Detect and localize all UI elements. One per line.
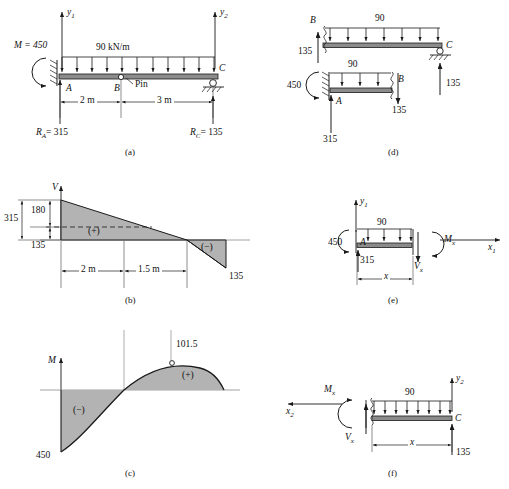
panel-f-axis-x2-label: x2	[286, 407, 294, 419]
panel-f-axis-y2-label: y2	[456, 374, 464, 386]
panel-d-bc-node-c-label: C	[446, 41, 452, 51]
panel-d-bc-shear-label: 135	[298, 47, 312, 57]
panel-e-dimension-label: x	[382, 272, 390, 282]
panel-b-axis-label: V	[52, 183, 58, 193]
panel-f-reaction-label: 135	[456, 448, 470, 458]
panel-d-bc-load-label: 90	[375, 14, 385, 24]
panel-d-ab-reaction-label: 315	[323, 135, 337, 145]
panel-c-peak-value-label: 101.5	[176, 340, 197, 350]
panel-a-applied-moment-label: M = 450	[14, 41, 47, 51]
panel-b-caption: (b)	[125, 296, 136, 305]
panel-c-sign-positive-label: (+)	[182, 371, 194, 381]
panel-a-dim-right-label: 3 m	[155, 96, 174, 106]
panel-b-value-upper-label: 180	[31, 206, 45, 216]
panel-e-load-label: 90	[377, 218, 387, 228]
panel-b-value-total-label: 315	[4, 214, 18, 224]
panel-e-internal-shear-label: Vx	[414, 262, 423, 274]
panel-f-internal-moment-label: Mx	[324, 385, 335, 397]
panel-e-caption: (e)	[388, 296, 398, 305]
panel-d-caption: (d)	[388, 148, 399, 157]
panel-a-node-c-label: C	[219, 64, 225, 74]
panel-e-reaction-label: 315	[360, 256, 374, 266]
panel-a-pin-label: Pin	[135, 80, 148, 90]
panel-f-dimension-label: x	[408, 438, 416, 448]
figure-vector-layer	[0, 0, 509, 489]
panel-d-bc-reaction-label: 135	[446, 79, 460, 89]
panel-d-ab-node-a-label: A	[336, 97, 342, 107]
panel-a-node-a-label: A	[66, 84, 72, 94]
panel-a-distributed-load-label: 90 kN/m	[96, 43, 130, 53]
panel-a-node-b-label: B	[114, 84, 120, 94]
panel-d-ab-load-label: 90	[348, 60, 358, 70]
panel-f-internal-shear-label: Vx	[345, 433, 354, 445]
figure-root: y1 y2 M = 450 90 kN/m A B C Pin 2 m 3 m …	[0, 0, 509, 489]
panel-b-value-lower-label: 135	[31, 241, 45, 251]
panel-f-caption: (f)	[388, 469, 397, 478]
panel-d-ab-graphics	[306, 72, 398, 133]
panel-e-axis-y1-label: y1	[360, 197, 368, 209]
panel-d-bc-node-b-label: B	[310, 16, 316, 26]
panel-a-caption: (a)	[125, 148, 135, 157]
panel-a-axis-y2-label: y2	[220, 8, 228, 20]
panel-e-internal-moment-label: Mx	[444, 235, 455, 247]
panel-e-axis-x1-label: x1	[488, 243, 496, 255]
panel-a-reaction-a-label: RA= 315	[36, 128, 68, 140]
panel-a-axis-y1-label: y1	[67, 8, 75, 20]
panel-f-node-c-label: C	[455, 414, 461, 424]
panel-d-bc-graphics	[318, 26, 451, 95]
panel-b-sign-positive-label: (+)	[88, 227, 100, 237]
panel-b-dim-left-label: 2 m	[79, 265, 98, 275]
panel-d-ab-moment-label: 450	[287, 81, 301, 91]
panel-c-axis-label: M	[48, 356, 56, 366]
panel-b-dim-right-label: 1.5 m	[136, 265, 162, 275]
panel-f-graphics	[288, 378, 452, 455]
panel-c-graphics	[40, 330, 240, 452]
panel-b-value-right-label: 135	[229, 272, 243, 282]
panel-c-end-value-label: 450	[36, 451, 50, 461]
panel-d-ab-node-b-label: B	[398, 75, 404, 85]
panel-a-reaction-c-label: RC= 135	[190, 128, 222, 140]
panel-b-graphics	[18, 186, 250, 288]
panel-a-dim-left-label: 2 m	[78, 96, 97, 106]
panel-c-caption: (c)	[125, 469, 135, 478]
panel-a-graphics	[32, 12, 224, 124]
panel-c-sign-negative-label: (−)	[73, 406, 85, 416]
panel-f-load-label: 90	[405, 388, 415, 398]
panel-b-sign-negative-label: (−)	[201, 243, 213, 253]
panel-e-moment-label: 450	[328, 238, 342, 248]
panel-d-ab-shear-label: 135	[392, 106, 406, 116]
panel-e-node-a-label: A	[360, 238, 366, 248]
